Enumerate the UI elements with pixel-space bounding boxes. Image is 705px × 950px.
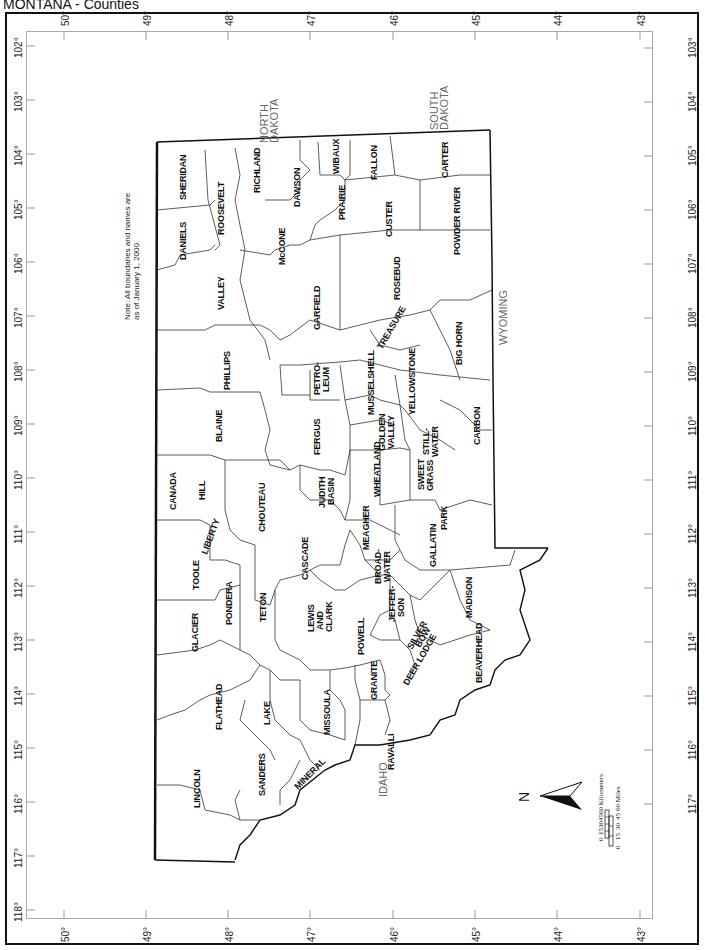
svg-text:109°: 109° bbox=[687, 361, 698, 382]
svg-text:110°: 110° bbox=[13, 470, 24, 490]
svg-text:109°: 109° bbox=[13, 415, 24, 436]
county-meagher: MEAGHER bbox=[361, 505, 371, 550]
county-granite: GRANITE bbox=[369, 661, 379, 700]
right-longitude-tick-marks bbox=[644, 48, 653, 804]
svg-text:44°: 44° bbox=[553, 927, 564, 942]
svg-text:50°: 50° bbox=[60, 927, 71, 942]
county-cascade: CASCADE bbox=[300, 537, 310, 580]
county-chouteau: CHOUTEAU bbox=[257, 483, 267, 532]
svg-text:117°: 117° bbox=[13, 848, 24, 868]
svg-text:48°: 48° bbox=[224, 927, 235, 942]
svg-text:47°: 47° bbox=[306, 927, 317, 942]
svg-text:60 Kilometers: 60 Kilometers bbox=[597, 774, 605, 814]
county-labels: SHERIDAN DANIELS ROOSEVELT RICHLAND DAWS… bbox=[178, 139, 484, 808]
county-mineral: MINERAL bbox=[292, 756, 328, 792]
county-sweet-grass-2: GRASS bbox=[425, 460, 435, 491]
svg-text:49°: 49° bbox=[142, 927, 153, 942]
county-pondera: PONDERA bbox=[224, 581, 234, 625]
county-phillips: PHILLIPS bbox=[222, 351, 232, 390]
county-missoula: MISSOULA bbox=[322, 688, 332, 735]
county-richland: RICHLAND bbox=[252, 147, 262, 193]
county-blaine: BLAINE bbox=[214, 410, 224, 442]
svg-text:as of January 1, 2000.: as of January 1, 2000. bbox=[132, 241, 141, 320]
svg-text:46°: 46° bbox=[389, 927, 400, 942]
county-gallatin: GALLATIN bbox=[428, 524, 438, 567]
county-flathead: FLATHEAD bbox=[214, 683, 224, 730]
county-carter: CARTER bbox=[440, 141, 450, 178]
county-prairie: PRAIRIE bbox=[337, 185, 347, 220]
svg-text:104°: 104° bbox=[13, 145, 24, 166]
county-judith-basin-2: BASIN bbox=[326, 478, 336, 505]
svg-text:113°: 113° bbox=[687, 578, 698, 598]
svg-text:45°: 45° bbox=[471, 11, 482, 26]
county-carbon: CARBON bbox=[472, 407, 482, 445]
svg-text:47°: 47° bbox=[306, 11, 317, 26]
svg-text:103°: 103° bbox=[687, 37, 698, 58]
svg-text:113°: 113° bbox=[13, 632, 24, 652]
svg-text:15: 15 bbox=[614, 833, 622, 841]
county-roosevelt: ROOSEVELT bbox=[216, 181, 226, 235]
svg-text:118°: 118° bbox=[13, 902, 24, 922]
svg-text:30: 30 bbox=[614, 823, 622, 831]
county-dawson: DAWSON bbox=[292, 168, 302, 207]
county-rosebud: ROSEBUD bbox=[392, 256, 402, 300]
county-golden-valley-2: VALLEY bbox=[386, 415, 396, 449]
svg-text:N: N bbox=[516, 792, 532, 802]
county-broadwater-2: WATER bbox=[382, 550, 392, 582]
svg-text:116°: 116° bbox=[13, 794, 24, 814]
bottom-latitude-labels: 50° 49° 48° 47° 46° 45° 44° 43° bbox=[60, 927, 647, 942]
svg-text:0: 0 bbox=[614, 845, 622, 849]
svg-text:DAKOTA: DAKOTA bbox=[268, 98, 280, 143]
svg-text:114°: 114° bbox=[13, 686, 24, 706]
county-liberty: LIBERTY bbox=[199, 517, 221, 555]
svg-text:46°: 46° bbox=[389, 11, 400, 26]
svg-text:43°: 43° bbox=[636, 11, 647, 26]
svg-text:111°: 111° bbox=[13, 525, 24, 544]
county-musselshell: MUSSELSHELL bbox=[366, 349, 376, 415]
svg-text:0: 0 bbox=[597, 837, 605, 841]
county-daniels: DANIELS bbox=[178, 222, 188, 260]
county-powder-river: POWDER RIVER bbox=[452, 186, 462, 255]
state-outline bbox=[155, 130, 548, 862]
county-sanders: SANDERS bbox=[257, 753, 267, 796]
county-fergus: FERGUS bbox=[312, 419, 322, 456]
svg-text:114°: 114° bbox=[687, 632, 698, 652]
county-toole: TOOLE bbox=[191, 560, 201, 590]
county-madison: MADISON bbox=[464, 577, 474, 618]
svg-text:WYOMING: WYOMING bbox=[497, 290, 509, 345]
svg-text:111°: 111° bbox=[687, 471, 698, 490]
svg-text:107°: 107° bbox=[687, 253, 698, 274]
county-garfield: GARFIELD bbox=[312, 285, 322, 330]
county-lincoln: LINCOLN bbox=[192, 769, 202, 808]
svg-text:104°: 104° bbox=[687, 91, 698, 112]
county-fallon: FALLON bbox=[369, 145, 379, 180]
county-glacier: GLACIER bbox=[190, 612, 200, 652]
county-jefferson-2: SON bbox=[396, 598, 406, 617]
svg-text:Note: All boundaries and names: Note: All boundaries and names are bbox=[123, 192, 132, 320]
county-teton: TETON bbox=[258, 593, 268, 622]
county-ravalli: RAVALLI bbox=[386, 734, 396, 770]
svg-text:110°: 110° bbox=[687, 416, 698, 436]
montana-county-map: 50° 49° 48° 47° 46° 45° 44° 43° 50° 49° … bbox=[0, 0, 705, 950]
svg-text:49°: 49° bbox=[142, 11, 153, 26]
scale-bar: 0 15 30 45 60 Kilometers 0 15 30 45 60 M… bbox=[597, 774, 622, 849]
boundary-note: Note: All boundaries and names are as of… bbox=[123, 192, 141, 320]
svg-text:115°: 115° bbox=[687, 686, 698, 706]
latitude-tick-marks bbox=[64, 31, 640, 919]
county-petroleum-2: LEUM bbox=[321, 367, 331, 392]
svg-text:108°: 108° bbox=[687, 307, 698, 328]
county-lake: LAKE bbox=[262, 701, 272, 725]
county-lewis-and-clark-3: CLARK bbox=[324, 601, 334, 632]
svg-text:115°: 115° bbox=[13, 740, 24, 760]
county-big-horn: BIG HORN bbox=[454, 322, 464, 365]
svg-text:CANADA: CANADA bbox=[168, 472, 178, 510]
right-longitude-labels: 103° 104° 105° 106° 107° 108° 109° 110° … bbox=[687, 37, 698, 814]
svg-text:60 Miles: 60 Miles bbox=[614, 786, 622, 811]
county-custer: CUSTER bbox=[384, 200, 394, 237]
svg-text:112°: 112° bbox=[687, 524, 698, 544]
svg-text:48°: 48° bbox=[224, 11, 235, 26]
svg-text:108°: 108° bbox=[13, 361, 24, 382]
svg-text:112°: 112° bbox=[13, 578, 24, 598]
left-longitude-tick-marks bbox=[26, 46, 35, 910]
top-latitude-labels: 50° 49° 48° 47° 46° 45° 44° 43° bbox=[60, 11, 647, 26]
